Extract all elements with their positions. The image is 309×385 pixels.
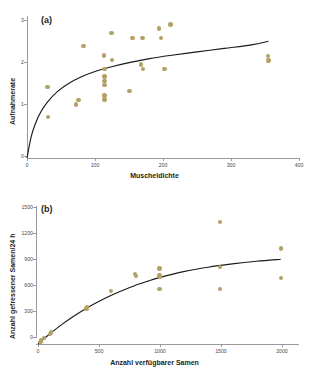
data-point [168, 22, 172, 26]
panel-b-xtick-mark-1500 [221, 344, 222, 347]
panel-b-ytick-1200: 1200 [13, 230, 33, 236]
panel-a-xtick-400: 400 [289, 162, 309, 168]
panel-a-xtick-mark-400 [299, 158, 300, 161]
data-point [109, 31, 113, 35]
data-point [127, 89, 131, 93]
data-point [139, 62, 143, 66]
panel-b-xtick-mark-0 [38, 344, 39, 347]
panel-a-ytick-1: 1 [12, 101, 24, 107]
panel-b-ytick-mark-0 [33, 337, 36, 338]
data-point [279, 246, 283, 250]
panel-a-x-axis-title: Muscheldichte [0, 172, 309, 179]
panel-b-fit-curve [38, 206, 299, 344]
panel-b-ytick-mark-1200 [33, 233, 36, 234]
panel-a-xtick-200: 200 [153, 162, 173, 168]
data-point [130, 36, 134, 40]
data-point [134, 274, 138, 278]
panel-a-xtick-mark-100 [95, 158, 96, 161]
data-point [102, 74, 106, 78]
panel-b-xtick-500: 500 [89, 348, 109, 354]
panel-b-y-axis-line [36, 206, 37, 338]
panel-b-xtick-1000: 1000 [150, 348, 170, 354]
panel-b-xtick-mark-2000 [282, 344, 283, 347]
data-point [157, 26, 161, 30]
panel-b-xtick-mark-1000 [160, 344, 161, 347]
data-point [74, 102, 78, 106]
data-point [159, 36, 163, 40]
data-point [49, 330, 53, 334]
data-point [102, 97, 106, 101]
panel-a-xtick-mark-0 [27, 158, 28, 161]
panel-b-xtick-2000: 2000 [272, 348, 292, 354]
data-point [162, 67, 166, 71]
panel-a-xtick-mark-300 [231, 158, 232, 161]
data-point [157, 275, 161, 279]
panel-b-xtick-0: 0 [28, 348, 48, 354]
panel-b-xtick-1500: 1500 [211, 348, 231, 354]
panel-a-ytick-3: 3 [12, 17, 24, 23]
data-point [45, 85, 49, 89]
panel-b-ytick-300: 300 [13, 308, 33, 314]
data-point [81, 44, 85, 48]
panel-b-plot-area [38, 206, 299, 344]
panel-a-xtick-100: 100 [85, 162, 105, 168]
panel-b-xtick-mark-500 [99, 344, 100, 347]
panel-b-ytick-900: 900 [13, 256, 33, 262]
panel-b-x-axis-title: Anzahl verfügbarer Samen [0, 359, 309, 366]
data-point [140, 36, 144, 40]
data-point [266, 58, 270, 62]
data-point [102, 53, 106, 57]
figure-container: (a) Aufnahmerate 3 2 1 0 0 100 200 300 4… [0, 0, 309, 385]
panel-b-ytick-mark-300 [33, 311, 36, 312]
panel-b: (b) Anzahl gefressener Samen/24 h 1500 1… [0, 192, 309, 385]
panel-a-xtick-0: 0 [17, 162, 37, 168]
data-point [157, 287, 161, 291]
panel-a-xtick-300: 300 [221, 162, 241, 168]
panel-a-ytick-0: 0 [12, 153, 24, 159]
panel-b-ytick-600: 600 [13, 282, 33, 288]
panel-b-ytick-0: 0 [13, 334, 33, 340]
panel-b-ytick-1500: 1500 [13, 204, 33, 210]
panel-a-ytick-2: 2 [12, 59, 24, 65]
panel-b-x-axis-line [36, 344, 299, 345]
panel-a-xtick-mark-200 [163, 158, 164, 161]
panel-a-plot-area [27, 16, 299, 158]
panel-b-ytick-mark-900 [33, 259, 36, 260]
panel-b-ytick-mark-1500 [33, 207, 36, 208]
panel-a: (a) Aufnahmerate 3 2 1 0 0 100 200 300 4… [0, 0, 309, 192]
data-point [109, 289, 113, 293]
panel-b-ytick-mark-600 [33, 285, 36, 286]
data-point [76, 98, 80, 102]
data-point [157, 266, 161, 270]
